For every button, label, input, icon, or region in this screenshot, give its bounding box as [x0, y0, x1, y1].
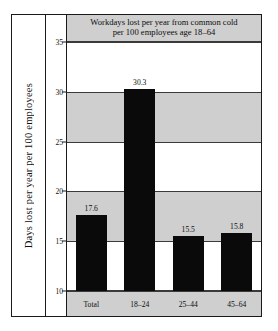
category-label-band: Total18–2425–4445–64	[67, 291, 261, 316]
chart-panel: Workdays lost per year from common cold …	[66, 15, 261, 316]
bar-value-label: 17.6	[85, 204, 98, 213]
gridline	[67, 191, 261, 192]
y-axis-label-band: Days lost per year per 100 employees	[12, 15, 46, 316]
gridline	[67, 92, 261, 93]
chart-title-band: Workdays lost per year from common cold …	[67, 15, 261, 42]
category-label: Total	[84, 300, 100, 309]
chart-title-line-2: per 100 employees age 18–64	[113, 28, 216, 38]
category-label: 18–24	[130, 300, 149, 309]
plot-band	[67, 92, 261, 142]
bar-value-label: 15.5	[182, 225, 195, 234]
category-label: 45–64	[227, 300, 246, 309]
category-label: 25–44	[179, 300, 198, 309]
y-axis-label: Days lost per year per 100 employees	[23, 83, 34, 248]
gridline	[67, 142, 261, 143]
bar	[173, 236, 204, 291]
chart-figure: Days lost per year per 100 employees 353…	[11, 14, 262, 317]
gridline	[67, 42, 261, 43]
bar	[76, 215, 107, 291]
y-axis-tick-column: 353025201510	[46, 15, 66, 316]
bar-value-label: 15.8	[230, 222, 243, 231]
bar	[221, 233, 252, 291]
bar	[124, 89, 155, 291]
plot-area: 17.630.315.515.8	[67, 42, 261, 291]
bar-value-label: 30.3	[133, 78, 146, 87]
